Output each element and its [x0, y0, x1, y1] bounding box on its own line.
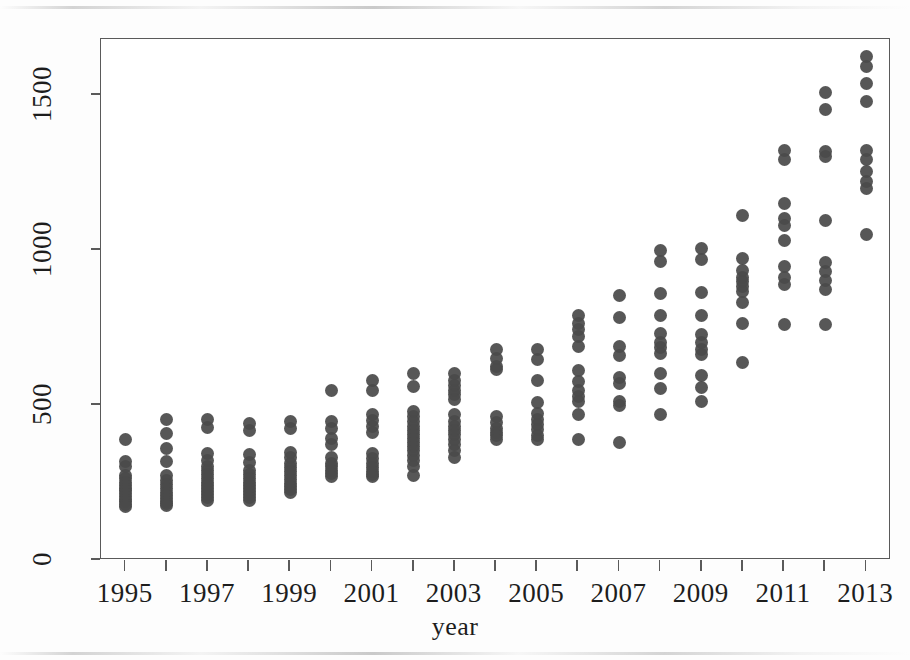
- scatter-point: [325, 438, 338, 451]
- x-axis-tick: [453, 560, 455, 571]
- scatter-point: [160, 455, 173, 468]
- y-axis-tick: [91, 403, 100, 405]
- x-axis-tick: [618, 560, 620, 571]
- x-axis-tick-label: 2005: [508, 578, 564, 609]
- x-axis-tick-label: 2007: [590, 578, 646, 609]
- x-axis-minor-tick: [659, 560, 661, 571]
- scatter-point: [490, 433, 503, 446]
- scatter-point: [284, 422, 297, 435]
- plot-frame: [100, 38, 890, 559]
- x-axis-minor-tick: [330, 560, 332, 571]
- scatter-point: [160, 442, 173, 455]
- x-axis-tick-label: 1995: [97, 578, 153, 609]
- x-axis-minor-tick: [741, 560, 743, 571]
- x-axis-tick: [865, 560, 867, 571]
- scatter-point: [819, 318, 832, 331]
- scatter-point: [736, 296, 749, 309]
- scatter-point: [613, 377, 626, 390]
- x-axis-tick-label: 2003: [426, 578, 482, 609]
- scatter-point: [860, 77, 873, 90]
- scatter-point: [695, 348, 708, 361]
- scatter-point: [572, 408, 585, 421]
- scatter-point: [531, 374, 544, 387]
- scatter-point: [613, 311, 626, 324]
- scatter-point: [366, 470, 379, 483]
- scatter-point: [654, 309, 667, 322]
- scatter-point: [613, 399, 626, 412]
- scatter-point: [778, 219, 791, 232]
- plot-area: [101, 39, 889, 558]
- x-axis-tick: [782, 560, 784, 571]
- scatter-point: [819, 103, 832, 116]
- y-axis-tick-label: 0: [27, 552, 58, 566]
- x-axis-minor-tick: [576, 560, 578, 571]
- scatter-point: [695, 395, 708, 408]
- scatter-point: [654, 287, 667, 300]
- scatter-point: [572, 340, 585, 353]
- scatter-point: [201, 494, 214, 507]
- scatter-point: [366, 426, 379, 439]
- y-axis-tick: [91, 248, 100, 250]
- scatter-point: [778, 197, 791, 210]
- x-axis-minor-tick: [165, 560, 167, 571]
- x-axis-tick: [535, 560, 537, 571]
- scatter-point: [160, 413, 173, 426]
- y-axis-tick-label: 1000: [27, 221, 58, 277]
- scatter-point: [695, 253, 708, 266]
- scatter-point: [407, 380, 420, 393]
- y-axis-tick-label: 1500: [27, 66, 58, 122]
- x-axis-tick: [124, 560, 126, 571]
- scatter-point: [819, 214, 832, 227]
- x-axis-tick-label: 2009: [673, 578, 729, 609]
- scatter-point: [243, 424, 256, 437]
- scatter-point: [654, 255, 667, 268]
- scatter-point: [860, 228, 873, 241]
- scatter-point: [736, 317, 749, 330]
- scatter-point: [695, 309, 708, 322]
- scatter-point: [531, 433, 544, 446]
- scatter-point: [325, 470, 338, 483]
- scatter-point: [243, 494, 256, 507]
- y-axis-tick-label: 500: [27, 383, 58, 425]
- x-axis-tick: [700, 560, 702, 571]
- scatter-point: [778, 318, 791, 331]
- scatter-point: [695, 286, 708, 299]
- scatter-point: [572, 433, 585, 446]
- scatter-point: [695, 381, 708, 394]
- x-axis-tick: [371, 560, 373, 571]
- x-axis-tick: [288, 560, 290, 571]
- y-axis-tick: [91, 93, 100, 95]
- scatter-point: [860, 95, 873, 108]
- scatter-point: [736, 356, 749, 369]
- scatter-point: [613, 349, 626, 362]
- scatter-point: [654, 382, 667, 395]
- x-axis-tick: [206, 560, 208, 571]
- scatter-point: [819, 283, 832, 296]
- scatter-point: [778, 278, 791, 291]
- scatter-point: [448, 393, 461, 406]
- scatter-point: [819, 150, 832, 163]
- x-axis-minor-tick: [494, 560, 496, 571]
- x-axis-tick-label: 1999: [261, 578, 317, 609]
- scatter-point: [654, 367, 667, 380]
- scatter-point: [407, 469, 420, 482]
- scatter-point: [531, 353, 544, 366]
- scatter-point: [284, 486, 297, 499]
- scatter-point: [201, 421, 214, 434]
- scan-artifact-bottom: [0, 652, 910, 655]
- scatter-point: [654, 408, 667, 421]
- scatter-point: [119, 433, 132, 446]
- y-axis-tick: [91, 558, 100, 560]
- scatter-point: [613, 436, 626, 449]
- scatter-point: [572, 395, 585, 408]
- scatter-point: [119, 500, 132, 513]
- x-axis-tick-label: 2013: [837, 578, 893, 609]
- scatter-point: [819, 86, 832, 99]
- x-axis-title: year: [0, 612, 910, 642]
- scatter-point: [778, 153, 791, 166]
- x-axis-minor-tick: [247, 560, 249, 571]
- scatter-point: [366, 384, 379, 397]
- scatter-point: [860, 182, 873, 195]
- x-axis-minor-tick: [412, 560, 414, 571]
- scatter-point: [736, 252, 749, 265]
